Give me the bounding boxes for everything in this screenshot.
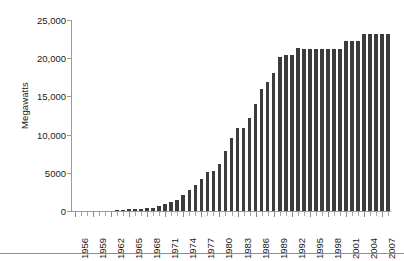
bar [212,171,216,211]
x-axis-tick-mark [153,212,154,216]
bar [302,49,306,211]
x-axis-tick-mark [213,212,214,216]
x-axis-tick-mark [147,212,148,217]
x-axis-tick-mark [99,212,100,216]
bar [127,209,131,211]
x-axis-tick-mark [316,212,317,216]
bar [242,128,246,211]
x-axis-tick-mark [250,212,251,216]
y-axis-tick-label: 5000 [20,167,66,178]
y-axis-tick-labels: 0500010,00015,00020,00025,000 [18,0,66,253]
x-axis-tick-mark [388,212,389,216]
x-axis-tick-mark [370,212,371,216]
x-axis-tick-mark [207,212,208,216]
bar [362,34,366,211]
y-axis-tick-label: 10,000 [20,129,66,140]
x-axis-tick-mark [111,212,112,217]
x-axis-tick-mark [322,212,323,216]
bar [194,185,198,211]
bar [188,190,192,211]
x-axis-line [71,211,391,212]
bar [169,202,173,211]
bar [374,34,378,211]
x-axis-tick-mark [292,212,293,217]
x-axis-tick-mark [123,212,124,216]
x-axis-tick-mark [376,212,377,216]
bar [200,179,204,211]
x-axis-tick-mark [358,212,359,216]
x-axis-tick-mark [238,212,239,217]
x-axis-tick-mark [334,212,335,216]
x-axis-tick-mark [189,212,190,216]
bar [338,49,342,211]
bar [266,82,270,211]
x-axis-tick-mark [225,212,226,216]
bar [224,151,228,211]
x-axis-tick-mark [280,212,281,216]
x-axis-tick-mark [364,212,365,217]
bar [332,49,336,211]
bar [121,210,125,211]
x-axis-tick-mark [105,212,106,216]
bar [145,208,149,211]
bar [296,48,300,211]
x-axis-tick-mark [195,212,196,216]
bar [163,204,167,211]
bar [314,49,318,211]
bar [230,138,234,211]
x-axis-tick-mark [232,212,233,216]
y-axis-tick-label: 0 [20,206,66,217]
bar [206,172,210,211]
bar [260,89,264,211]
bar [290,55,294,211]
x-axis-tick-mark [382,212,383,217]
x-axis-tick-mark [129,212,130,217]
x-axis-tick-mark [183,212,184,217]
bar [175,200,179,211]
x-axis-tick-mark [268,212,269,216]
bar [236,128,240,211]
x-axis-tick-mark [286,212,287,216]
x-axis-tick-mark [81,212,82,216]
x-axis-tick-mark [177,212,178,216]
bar [344,41,348,211]
bar [115,210,119,211]
figure-bottom-rule [0,253,404,254]
x-axis-tick-mark [75,212,76,217]
bar [326,49,330,211]
bar [284,55,288,211]
bar [133,209,137,211]
bar [308,49,312,211]
bar [380,34,384,211]
bar [350,41,354,211]
x-axis-tick-mark [310,212,311,217]
x-axis-tick-mark [117,212,118,216]
x-axis-tick-mark [304,212,305,216]
bar [139,209,143,211]
x-axis-tick-mark [346,212,347,217]
bar [254,104,258,211]
bar [157,206,161,211]
bar [181,195,185,211]
x-axis-tick-mark [219,212,220,217]
x-axis-tick-mark [171,212,172,216]
chart-plot-wrapper: Megawatts 0500010,00015,00020,00025,000 … [0,0,404,253]
bar-series [72,20,391,211]
x-axis-tick-mark [87,212,88,216]
bar [278,57,282,211]
x-axis-tick-mark [256,212,257,217]
bar [320,49,324,211]
bar [368,34,372,211]
y-axis-tick-label: 15,000 [20,91,66,102]
x-axis-tick-mark [298,212,299,216]
chart-figure: Megawatts 0500010,00015,00020,00025,000 … [0,0,404,261]
bar [248,118,252,211]
x-axis-tick-mark [340,212,341,216]
y-axis-tick-label: 20,000 [20,53,66,64]
x-axis-tick-mark [352,212,353,216]
x-axis-tick-mark [165,212,166,217]
x-axis-tick-mark [159,212,160,216]
x-axis-tick-mark [141,212,142,216]
bar [218,164,222,211]
bar [151,208,155,211]
